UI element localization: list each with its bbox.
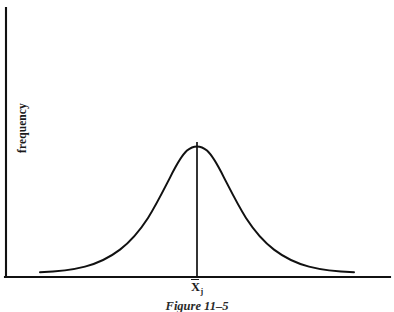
x-bar-symbol: X [191,280,200,295]
figure-container: frequency Xj Figure 11–5 [0,0,394,312]
distribution-plot [0,0,394,312]
x-axis-mean-tick-label: Xj [173,280,221,296]
y-axis-label: frequency [12,98,32,158]
figure-caption: Figure 11–5 [0,299,394,312]
x-bar-subscript: j [200,287,203,296]
